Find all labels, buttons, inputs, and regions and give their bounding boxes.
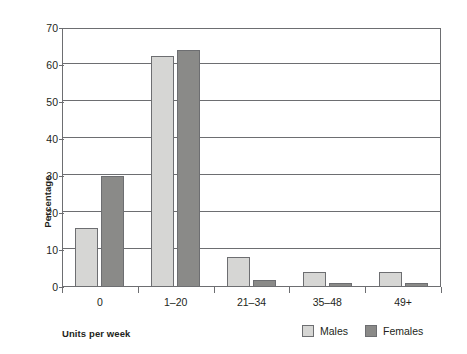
legend: MalesFemales [302,325,423,337]
legend-entry-males: Males [302,325,348,337]
x-axis-labels: 01–2021–3435–4849+ [62,297,441,313]
legend-swatch-females [365,325,377,337]
x-tick-mark [289,287,290,293]
x-tick-label: 49+ [368,297,438,309]
x-tick-mark [365,287,366,293]
x-axis-ticks [62,287,441,295]
y-axis-title: Percentage [42,152,53,252]
y-tick-label: 40 [32,134,58,145]
bar-females-0 [101,176,124,287]
y-tick-label: 60 [32,60,58,71]
y-tick-label: 50 [32,97,58,108]
y-tick-label: 70 [32,23,58,34]
x-tick-label: 35–48 [292,297,362,309]
x-tick-label: 21–34 [217,297,287,309]
bar-females-1 [177,50,200,287]
bar-males-2 [227,257,250,287]
bar-males-4 [379,272,402,287]
bar-chart: 010203040506070 Percentage 01–2021–3435–… [0,0,467,354]
x-tick-label: 0 [65,297,135,309]
x-tick-mark [138,287,139,293]
x-tick-mark [441,287,442,293]
x-tick-mark [62,287,63,293]
legend-entry-females: Females [365,325,423,337]
x-tick-label: 1–20 [141,297,211,309]
bar-females-2 [253,280,276,287]
bar-males-1 [151,56,174,287]
legend-label-males: Males [320,326,348,337]
legend-swatch-males [302,325,314,337]
x-axis-title: Units per week [62,328,130,339]
bar-males-3 [303,272,326,287]
legend-label-females: Females [383,326,423,337]
x-tick-mark [214,287,215,293]
y-tick-label: 0 [32,282,58,293]
bars-layer [62,28,441,287]
bar-males-0 [75,228,98,287]
